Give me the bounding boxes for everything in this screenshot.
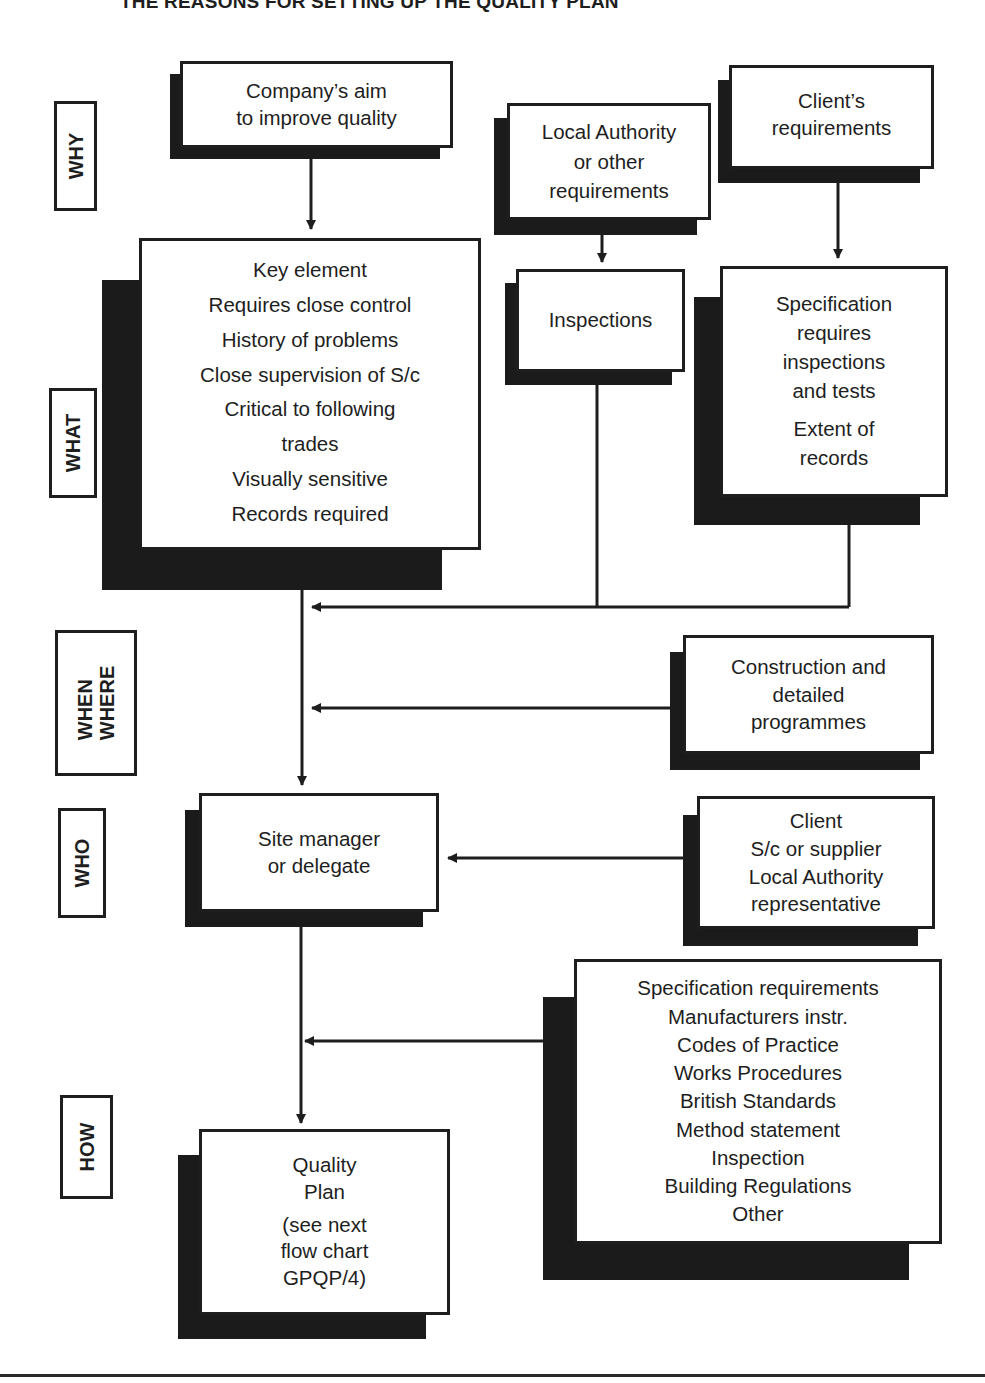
box-who-others: Client S/c or supplier Local Authority r… [697,796,935,929]
box-local-authority: Local Authority or other requirements [507,103,711,220]
box-text-line: or other [574,147,645,177]
box-clients-requirements: Client’s requirements [729,65,934,169]
box-text-line: or delegate [268,853,371,880]
box-text-line: flow chart [281,1238,369,1265]
box-text-line: and tests [792,377,875,406]
box-text-line: Method statement [676,1116,840,1144]
box-text-line: Close supervision of S/c [200,358,420,393]
box-text-line: requirements [549,176,669,206]
box-text-line: Manufacturers instr. [668,1003,848,1031]
box-text-line: Key element [253,253,367,288]
box-text-line: representative [751,890,881,918]
box-what-criteria: Key element Requires close control Histo… [139,238,481,550]
box-quality-plan: Quality Plan (see next flow chart GPQP/4… [199,1129,450,1315]
box-text-line: Other [732,1200,783,1228]
box-text-line: Building Regulations [665,1172,852,1200]
box-text-line: requires [797,319,871,348]
box-text-line: Extent of [794,415,875,444]
box-text-line: Codes of Practice [677,1031,839,1059]
box-text-line: Inspections [549,307,653,334]
box-how-sources: Specification requirements Manufacturers… [574,959,942,1244]
box-text-line: Client [790,807,842,835]
box-text-line: Visually sensitive [232,462,388,497]
box-text-line: detailed [773,681,845,709]
box-text-line: inspections [783,348,886,377]
box-text-line: Quality [293,1152,357,1179]
box-inspections: Inspections [516,269,685,372]
box-text-line: programmes [751,708,866,736]
box-site-manager: Site manager or delegate [199,793,439,912]
box-text-line: Requires close control [209,288,412,323]
box-text-line: S/c or supplier [750,835,881,863]
box-text-line: Company’s aim [246,78,387,105]
box-text-line: Specification requirements [637,974,879,1002]
box-text-line: Records required [231,497,388,532]
box-text-line: Plan [304,1179,345,1206]
box-text-line: (see next [282,1212,366,1239]
box-text-line: Site manager [258,826,380,853]
box-text-line: Local Authority [749,863,883,891]
box-text-line: trades [282,427,339,462]
box-text-line: Construction and [731,653,886,681]
box-text-line: British Standards [680,1087,836,1115]
bottom-rule [0,1374,985,1377]
box-text-line: Inspection [711,1144,804,1172]
box-text-line: GPQP/4) [283,1265,366,1292]
box-company-aim: Company’s aim to improve quality [180,61,453,148]
box-text-line: requirements [772,115,892,142]
box-text-line: Client’s [798,88,865,115]
box-text-line: History of problems [222,323,399,358]
box-programmes: Construction and detailed programmes [683,635,934,754]
box-text-line: Works Procedures [674,1059,842,1087]
box-text-line: Local Authority [542,117,676,147]
box-specification: Specification requires inspections and t… [720,266,948,497]
box-text-line: to improve quality [236,105,397,132]
box-text-line: Critical to following [225,392,396,427]
box-text-line: records [800,444,868,473]
box-text-line: Specification [776,290,892,319]
